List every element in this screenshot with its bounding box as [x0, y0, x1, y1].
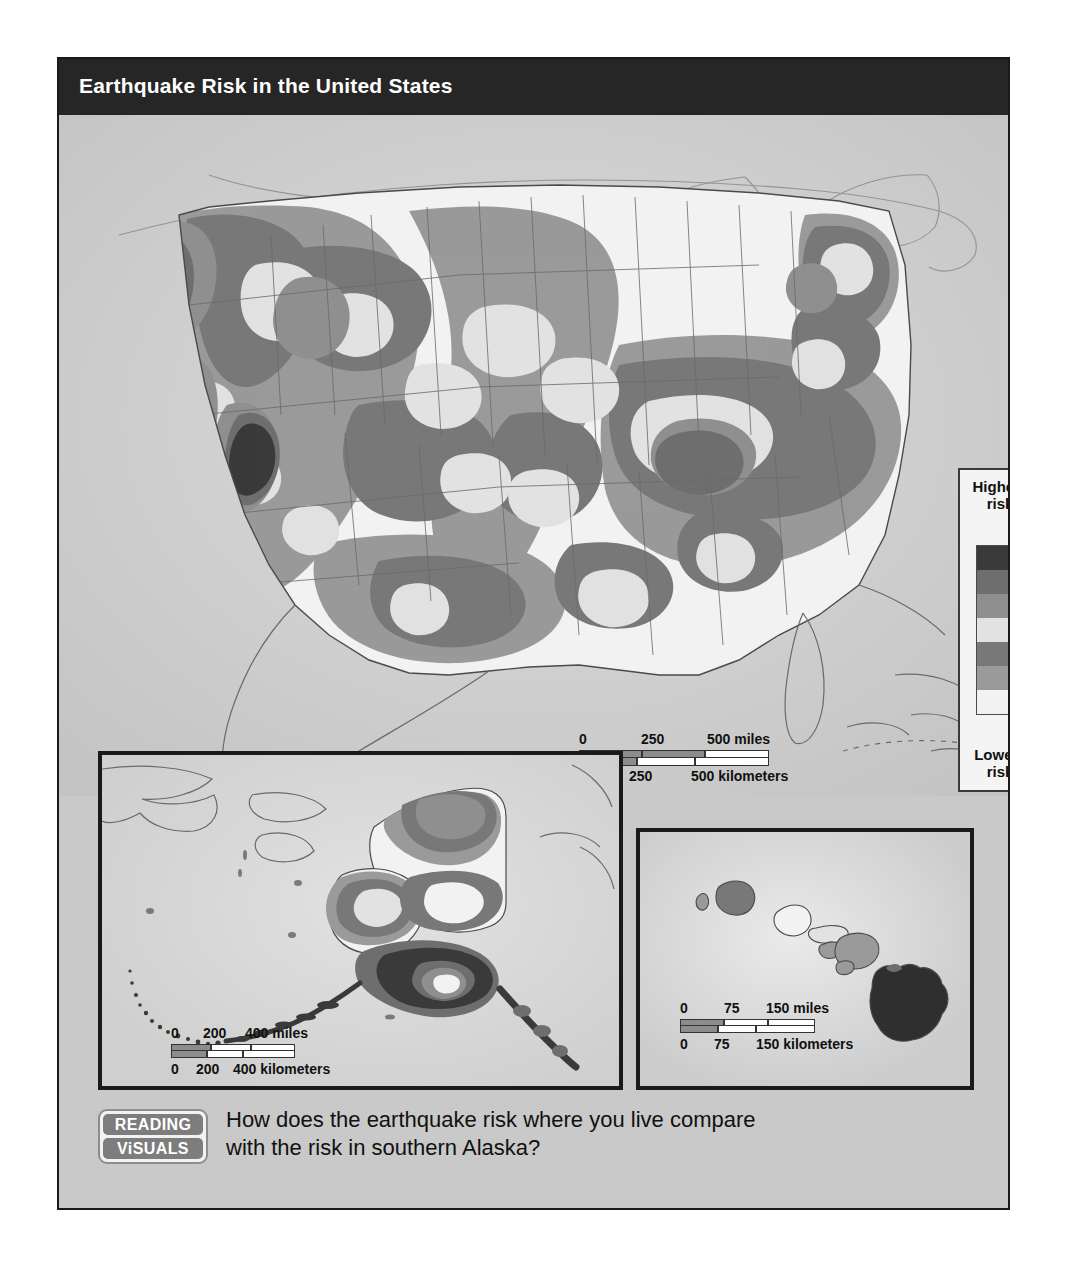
legend-band-3 — [977, 594, 1009, 618]
legend-band-2 — [977, 570, 1009, 594]
legend-band-6 — [977, 666, 1009, 690]
hi-scale-km-mid: 75 — [714, 1036, 730, 1052]
ak-scale-graphic — [171, 1044, 295, 1059]
hi-scale-graphic — [680, 1019, 815, 1034]
ak-scale-miles-mid: 200 — [203, 1025, 226, 1041]
scale-miles-0: 0 — [579, 731, 587, 747]
hi-scale-km-0: 0 — [680, 1036, 688, 1052]
legend-band-7 — [977, 690, 1009, 714]
page-title: Earthquake Risk in the United States — [79, 74, 453, 98]
scale-seg-km-3 — [695, 757, 769, 766]
hi-scale-miles-mid: 75 — [724, 1000, 740, 1016]
hi-scale-seg-km-3 — [756, 1025, 815, 1033]
scale-miles-mid: 250 — [641, 731, 664, 747]
legend-lowest-word: Lowest — [974, 746, 1008, 763]
hi-scale-seg-km-1 — [680, 1025, 718, 1033]
scale-seg-km-2 — [637, 757, 695, 766]
hi-scale-miles-0: 0 — [680, 1000, 688, 1016]
hi-scale-miles-labels: 0 75 150 miles — [680, 1000, 870, 1017]
figure-title-bar: Earthquake Risk in the United States — [59, 59, 1008, 115]
ak-scale-seg-km-1 — [171, 1050, 207, 1058]
reading-visuals-badge: READING ViSUALS — [98, 1109, 208, 1164]
caption-question: How does the earthquake risk where you l… — [226, 1105, 756, 1162]
scale-km-mid: 250 — [629, 768, 652, 784]
legend-band-5 — [977, 642, 1009, 666]
alaska-inset: 0 200 400 miles 0 200 400 kilometers — [98, 751, 623, 1090]
ak-scale-seg-km-3 — [243, 1050, 295, 1058]
legend-band-1 — [977, 546, 1009, 570]
ak-scale-km-0: 0 — [171, 1061, 179, 1077]
ak-scale-km-mid: 200 — [196, 1061, 219, 1077]
legend-lowest-risk-word: risk — [987, 763, 1008, 780]
earthquake-risk-legend[interactable]: Highest risk Lowest risk — [958, 468, 1008, 792]
ak-scale-miles-labels: 0 200 400 miles — [171, 1025, 361, 1042]
main-map-panel: Highest risk Lowest risk — [59, 115, 1008, 796]
alaska-scale-bar: 0 200 400 miles 0 200 400 kilometers — [171, 1025, 371, 1078]
ak-scale-km-labels: 0 200 400 kilometers — [171, 1061, 371, 1078]
earthquake-risk-figure: Earthquake Risk in the United States — [57, 57, 1010, 1210]
caption-line-2: with the risk in southern Alaska? — [226, 1134, 756, 1162]
legend-highest-word: Highest — [972, 478, 1008, 495]
reading-visuals-caption: READING ViSUALS How does the earthquake … — [98, 1105, 978, 1191]
scale-miles-labels: 0 250 500 miles — [579, 731, 769, 748]
hawaii-inset: 0 75 150 miles 0 75 150 kilometers — [636, 828, 974, 1090]
legend-bottom-label: Lowest risk — [974, 747, 1008, 781]
scale-miles-end: 500 miles — [707, 731, 770, 747]
scale-km-end: 500 kilometers — [691, 768, 788, 784]
hi-scale-seg-km-2 — [718, 1025, 756, 1033]
ak-scale-seg-km-2 — [207, 1050, 243, 1058]
badge-visuals-label: ViSUALS — [103, 1138, 203, 1159]
legend-top-label: Highest risk — [972, 479, 1008, 513]
ak-scale-miles-end: 400 miles — [245, 1025, 308, 1041]
legend-color-ramp — [976, 545, 1009, 715]
caption-line-1: How does the earthquake risk where you l… — [226, 1106, 756, 1134]
legend-band-4 — [977, 618, 1009, 642]
hi-scale-miles-end: 150 miles — [766, 1000, 829, 1016]
hawaii-scale-bar: 0 75 150 miles 0 75 150 kilometers — [680, 1000, 890, 1053]
badge-reading-label: READING — [103, 1114, 203, 1135]
hi-scale-km-end: 150 kilometers — [756, 1036, 853, 1052]
hi-scale-km-labels: 0 75 150 kilometers — [680, 1036, 890, 1053]
legend-highest-risk-word: risk — [987, 495, 1008, 512]
us-risk-map-svg — [59, 115, 1008, 796]
ak-scale-km-end: 400 kilometers — [233, 1061, 330, 1077]
ak-scale-miles-0: 0 — [171, 1025, 179, 1041]
